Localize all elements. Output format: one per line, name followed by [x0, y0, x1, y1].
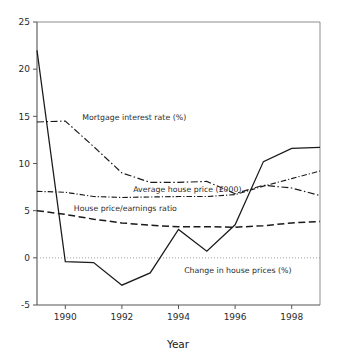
series-lines	[37, 50, 320, 285]
x-tick-label: 1994	[167, 312, 190, 322]
series-annotations: Change in house prices (%)Mortgage inter…	[74, 113, 292, 275]
y-tick-label: 0	[24, 253, 30, 263]
y-axis-ticks	[33, 22, 37, 305]
x-tick-label: 1992	[110, 312, 133, 322]
x-tick-label: 1998	[280, 312, 303, 322]
y-tick-label: 10	[19, 159, 31, 169]
y-tick-label: -5	[21, 300, 30, 310]
x-axis-title: Year	[166, 338, 190, 350]
series-line-0	[37, 50, 320, 285]
x-tick-label: 1990	[54, 312, 77, 322]
series-line-3	[37, 211, 320, 228]
y-tick-label: 5	[24, 206, 30, 216]
y-axis-tick-labels: 2520151050-5	[19, 17, 31, 310]
x-axis-tick-labels: 19901992199419961998	[54, 312, 304, 322]
x-axis-ticks	[65, 305, 291, 309]
y-tick-label: 15	[19, 112, 30, 122]
y-tick-label: 20	[19, 64, 31, 74]
y-tick-label: 25	[19, 17, 30, 27]
house-price-line-chart: 2520151050-5 19901992199419961998 Change…	[0, 0, 338, 362]
x-tick-label: 1996	[224, 312, 247, 322]
series-label-2: Average house price (£000)	[133, 185, 241, 194]
chart-container: 2520151050-5 19901992199419961998 Change…	[0, 0, 338, 362]
series-label-0: Change in house prices (%)	[184, 266, 291, 275]
series-label-3: House price/earnings ratio	[74, 204, 177, 213]
series-label-1: Mortgage interest rate (%)	[82, 113, 186, 122]
